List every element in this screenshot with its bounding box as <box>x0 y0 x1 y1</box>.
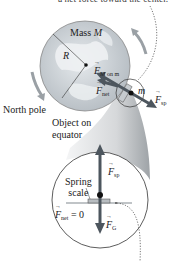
inset-gravity-force-label: FG <box>106 220 116 231</box>
rotation-arrow-left <box>32 72 42 96</box>
inset-spring-force-label: Fsp <box>108 167 119 178</box>
caption-top: a net force toward the center. <box>58 0 168 5</box>
radius-label: R <box>63 51 69 61</box>
spring-force-label: Fsp <box>155 95 166 106</box>
inset-net-force-label: Fnet = 0 <box>55 210 84 221</box>
net-force-label: Fnet <box>96 86 109 97</box>
gravity-force-label: FM on m <box>94 66 119 77</box>
diagram-stage: a net force toward the center. Mass M R … <box>0 0 171 262</box>
earth-center-dot <box>84 63 88 67</box>
object-dot <box>129 91 134 96</box>
object-on-equator-label: Object on equator <box>52 117 91 141</box>
inset-object-dot <box>97 192 103 198</box>
north-pole-label: North pole <box>3 105 46 115</box>
earth-mass-label: Mass M <box>70 28 102 38</box>
object-mass-label: m <box>138 86 145 96</box>
rotation-arrow-right <box>134 32 146 54</box>
spring-scale-label: Spring scale <box>65 176 92 198</box>
